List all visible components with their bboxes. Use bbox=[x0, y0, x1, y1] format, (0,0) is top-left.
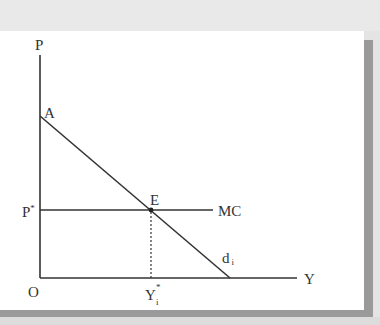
quantity-level-star: * bbox=[156, 282, 161, 292]
quantity-level-subscript: i bbox=[156, 297, 159, 307]
demand-curve bbox=[40, 116, 230, 278]
price-axis-label: P bbox=[35, 37, 43, 53]
price-level-label: P* bbox=[22, 203, 35, 220]
equilibrium-point-e bbox=[149, 208, 154, 213]
diagram-canvas: P A E MC P* O Y * i di Y bbox=[0, 0, 380, 325]
point-a-label: A bbox=[44, 105, 55, 121]
point-e-label: E bbox=[150, 192, 159, 208]
origin-label: O bbox=[28, 284, 39, 300]
demand-label-base: d bbox=[222, 250, 230, 266]
price-level-base: P bbox=[22, 204, 30, 220]
quantity-level-label: Y bbox=[145, 287, 156, 303]
price-level-star: * bbox=[30, 203, 35, 213]
quantity-level-base: Y bbox=[145, 287, 156, 303]
demand-label-subscript: i bbox=[232, 257, 235, 267]
quantity-axis-label: Y bbox=[304, 271, 315, 287]
demand-curve-label: di bbox=[222, 250, 235, 267]
mc-label: MC bbox=[218, 203, 241, 219]
